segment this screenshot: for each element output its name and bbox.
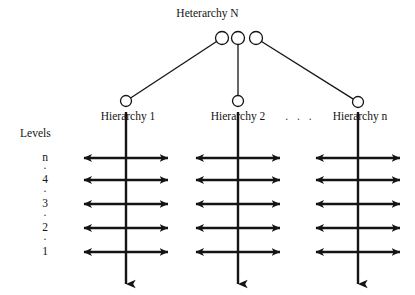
level-label-4: 4 <box>32 174 58 186</box>
hierarchy-ellipsis: . . . <box>285 111 314 123</box>
hierarchy-n-label: Hierarchy n <box>333 111 388 123</box>
hierarchy-2-node <box>233 96 244 107</box>
levels-axis-title: Levels <box>20 128 51 140</box>
level-label-2: 2 <box>32 222 58 234</box>
root-node-middle <box>232 32 245 45</box>
diagram-canvas <box>0 0 415 295</box>
hierarchy-1-label: Hierarchy 1 <box>101 111 156 123</box>
root-edge-group <box>131 41 354 99</box>
edge-root-to-hierarchy-n <box>262 41 354 99</box>
hierarchy-node-group <box>121 96 364 108</box>
level-separator-dot-8: · <box>32 234 58 246</box>
root-label: Heterarchy N <box>0 8 415 20</box>
hierarchy-1-node <box>121 96 132 107</box>
level-separator-dot-4: · <box>32 186 58 198</box>
root-node-group <box>216 32 263 45</box>
level-label-1: 1 <box>32 246 58 258</box>
vertical-axis-group <box>126 112 358 284</box>
root-node-left <box>216 32 229 45</box>
edge-root-to-hierarchy-1 <box>131 42 217 98</box>
hierarchy-2-label: Hierarchy 2 <box>211 111 266 123</box>
root-node-right <box>250 32 263 45</box>
hierarchy-n-node <box>353 97 364 108</box>
level-separator-dot-6: · <box>32 210 58 222</box>
level-arrow-group <box>84 158 400 252</box>
heterarchy-diagram: Heterarchy N Hierarchy 1 Hierarchy 2 . .… <box>0 0 415 295</box>
level-label-3: 3 <box>32 198 58 210</box>
